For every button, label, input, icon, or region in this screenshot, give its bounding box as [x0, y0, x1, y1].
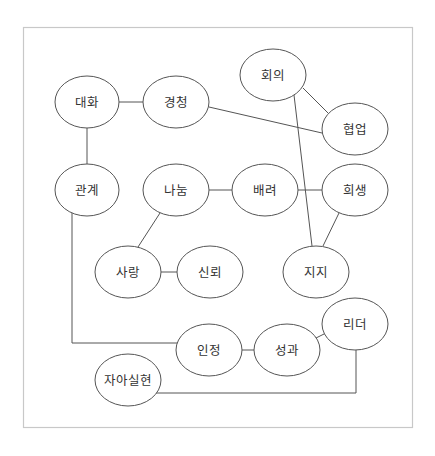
node-label: 희생 — [343, 183, 367, 198]
nodes: 대화 경청 회의 협업 관계 나눔 배려 희생 — [55, 49, 388, 406]
node-gyeongcheong[interactable]: 경청 — [143, 76, 209, 128]
node-jiji[interactable]: 지지 — [283, 246, 349, 298]
node-label: 배려 — [253, 183, 277, 198]
node-label: 인정 — [197, 343, 221, 358]
edge-huisaeng-jiji — [323, 213, 339, 246]
node-label: 나눔 — [164, 183, 188, 198]
node-sarang[interactable]: 사랑 — [95, 246, 161, 298]
node-baeryeo[interactable]: 배려 — [232, 164, 298, 216]
node-hoeui[interactable]: 회의 — [240, 49, 306, 101]
node-seonggwa[interactable]: 성과 — [254, 324, 320, 376]
node-rideo[interactable]: 리더 — [322, 298, 388, 350]
node-nanum[interactable]: 나눔 — [143, 164, 209, 216]
edge-gyeongcheong-hyeobeop — [209, 107, 322, 133]
edge-nanum-sarang — [138, 213, 160, 247]
node-gwangye[interactable]: 관계 — [55, 164, 119, 216]
node-sinroe[interactable]: 신뢰 — [177, 246, 243, 298]
node-daehwa[interactable]: 대화 — [55, 76, 119, 128]
edge-hoeui-hyeobeop — [303, 88, 328, 113]
node-label: 협업 — [343, 122, 367, 137]
concept-diagram: 대화 경청 회의 협업 관계 나눔 배려 희생 — [0, 0, 435, 456]
node-injeong[interactable]: 인정 — [176, 324, 242, 376]
node-label: 리더 — [343, 317, 367, 332]
edge-hoeui-jiji — [294, 95, 312, 246]
node-label: 대화 — [75, 95, 99, 110]
node-label: 지지 — [304, 265, 328, 280]
node-label: 관계 — [75, 183, 99, 198]
node-hyeobeop[interactable]: 협업 — [322, 103, 388, 155]
node-label: 사랑 — [116, 265, 140, 280]
node-label: 회의 — [261, 68, 285, 83]
node-label: 신뢰 — [198, 265, 222, 280]
node-huisaeng[interactable]: 희생 — [322, 164, 388, 216]
node-jaasilhyeon[interactable]: 자아실현 — [95, 354, 161, 406]
node-label: 자아실현 — [104, 373, 152, 388]
node-label: 성과 — [275, 343, 299, 358]
node-label: 경청 — [164, 95, 188, 110]
